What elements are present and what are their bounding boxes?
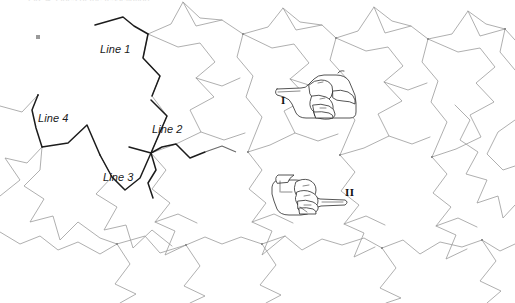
tessellation-figure: Fig. 4. Lines of the tessellation	[0, 0, 515, 303]
line-3-label: Line 3	[103, 171, 134, 183]
line-2-path	[129, 144, 205, 158]
tessellation-gray-lines	[0, 2, 515, 303]
line-4-label: Line 4	[38, 112, 69, 124]
line-2-fade-tail	[205, 146, 236, 152]
tessellation-vertex-markers	[37, 28, 506, 249]
line-4-path	[32, 95, 100, 155]
line-1-path	[95, 17, 160, 96]
hand-one-roman-label: I	[281, 94, 286, 106]
line-2-label: Line 2	[152, 123, 183, 135]
pointing-hand-left-icon	[276, 71, 357, 119]
hand-two-roman-label: II	[345, 186, 355, 198]
line-1-label: Line 1	[100, 43, 131, 55]
origin-dot-marker	[36, 35, 40, 39]
tessellation-drawing	[0, 0, 515, 303]
